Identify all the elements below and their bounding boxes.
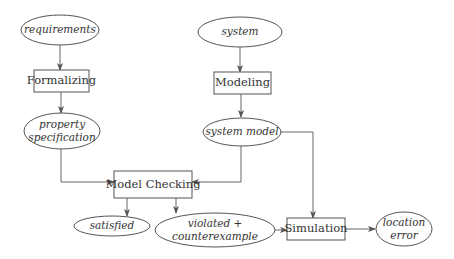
node-label-line2: specification [28,131,96,143]
node-label: satisfied [90,219,135,231]
node-requirements: requirements [21,15,99,45]
diagram-canvas: requirements Formalizing property specif… [0,0,454,259]
node-label: Formalizing [27,73,97,87]
node-modeling: Modeling [214,72,271,94]
node-satisfied: satisfied [74,216,150,236]
node-label-line1: location [383,216,426,228]
node-label-line2: counterexample [172,230,258,242]
node-system-model: system model [203,118,281,146]
node-label: Modeling [215,75,271,89]
node-label: Simulation [284,221,348,235]
node-system: system [198,17,282,47]
node-model-checking: Model Checking [105,171,201,198]
node-location-error: location error [376,212,432,246]
node-label: system [221,25,258,37]
node-label-line1: violated + [188,217,243,229]
node-label: system model [205,125,278,137]
node-violated-counterexample: violated + counterexample [155,213,275,247]
node-formalizing: Formalizing [27,70,97,92]
node-label-line1: property [39,118,86,130]
edge-systemmodel-simulation [280,132,313,218]
node-label: requirements [24,23,96,35]
node-property-specification: property specification [24,113,100,149]
node-label-line2: error [390,229,419,241]
node-label: Model Checking [105,177,201,191]
node-simulation: Simulation [284,218,348,240]
